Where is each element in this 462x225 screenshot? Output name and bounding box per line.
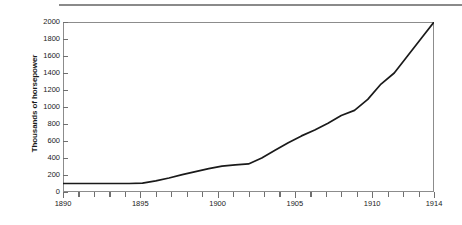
y-axis-tick-mark	[63, 22, 68, 23]
y-axis-tick-mark	[63, 56, 68, 57]
x-axis-minor-tick-mark	[357, 192, 358, 197]
y-axis-tick-mark	[63, 141, 68, 142]
y-axis-tick-labels: 0200400600800100012001400160018002000	[16, 0, 60, 225]
x-axis-minor-tick-mark	[419, 192, 420, 197]
x-axis-major-tick-mark	[140, 192, 141, 198]
x-axis-minor-tick-mark	[403, 192, 404, 197]
chart-figure: Thousands of horsepower 0200400600800100…	[0, 0, 462, 225]
x-axis-minor-tick-mark	[202, 192, 203, 197]
chart-line-plot	[63, 22, 434, 192]
x-axis-tick-label: 1905	[275, 200, 315, 208]
y-axis-tick-mark	[63, 73, 68, 74]
x-axis-minor-tick-mark	[341, 192, 342, 197]
x-axis-minor-tick-mark	[171, 192, 172, 197]
x-axis-tick-label: 1890	[43, 200, 83, 208]
x-axis-minor-tick-mark	[326, 192, 327, 197]
x-axis-tick-label: 1910	[352, 200, 392, 208]
x-axis-minor-tick-mark	[233, 192, 234, 197]
y-axis-tick-label: 2000	[20, 18, 60, 26]
y-axis-tick-mark	[63, 192, 68, 193]
y-axis-tick-mark	[63, 90, 68, 91]
series-horsepower-line	[63, 22, 434, 184]
y-axis-tick-label: 600	[20, 137, 60, 145]
x-axis-tick-label: 1914	[414, 200, 454, 208]
x-axis-tick-label: 1895	[120, 200, 160, 208]
y-axis-tick-mark	[63, 39, 68, 40]
y-axis-tick-mark	[63, 124, 68, 125]
x-axis-minor-tick-mark	[109, 192, 110, 197]
x-axis-minor-tick-mark	[388, 192, 389, 197]
x-axis-major-tick-mark	[295, 192, 296, 198]
y-axis-tick-label: 400	[20, 154, 60, 162]
y-axis-tick-label: 1200	[20, 86, 60, 94]
y-axis-tick-label: 1600	[20, 52, 60, 60]
y-axis-tick-label: 0	[20, 188, 60, 196]
y-axis-tick-mark	[63, 175, 68, 176]
y-axis-tick-label: 1000	[20, 103, 60, 111]
x-axis-major-tick-mark	[372, 192, 373, 198]
x-axis-minor-tick-mark	[94, 192, 95, 197]
y-axis-tick-label: 1800	[20, 35, 60, 43]
x-axis-minor-tick-mark	[264, 192, 265, 197]
y-axis-tick-label: 200	[20, 171, 60, 179]
x-axis-minor-tick-mark	[78, 192, 79, 197]
x-axis-minor-tick-mark	[125, 192, 126, 197]
x-axis-major-tick-mark	[434, 192, 435, 198]
y-axis-tick-label: 1400	[20, 69, 60, 77]
top-divider-rule	[59, 4, 462, 6]
x-axis-minor-tick-mark	[279, 192, 280, 197]
x-axis-minor-tick-mark	[249, 192, 250, 197]
x-axis-minor-tick-mark	[156, 192, 157, 197]
y-axis-tick-label: 800	[20, 120, 60, 128]
x-axis-tick-label: 1900	[198, 200, 238, 208]
x-axis-minor-tick-mark	[187, 192, 188, 197]
x-axis-major-tick-mark	[218, 192, 219, 198]
y-axis-tick-mark	[63, 107, 68, 108]
y-axis-tick-mark	[63, 158, 68, 159]
x-axis-minor-tick-mark	[310, 192, 311, 197]
